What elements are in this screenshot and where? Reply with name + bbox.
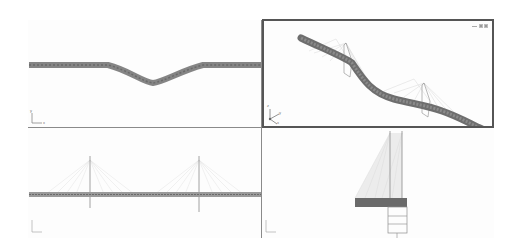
maximize-icon[interactable]	[484, 24, 488, 28]
bridge-3d-drawing	[264, 21, 492, 126]
axis-label-y: y	[30, 108, 32, 113]
axis-gizmo-icon	[264, 214, 284, 234]
bridge-section-drawing	[262, 128, 494, 238]
axis-label-x: x	[43, 120, 45, 125]
axis-gizmo-icon	[30, 110, 50, 126]
viewport-perspective[interactable]: y x z	[262, 19, 494, 128]
bridge-elevation-drawing	[28, 128, 262, 238]
restore-icon[interactable]	[479, 24, 483, 28]
bridge-plan-drawing	[28, 20, 262, 128]
viewport-front[interactable]	[28, 128, 262, 238]
viewport-top[interactable]: x y	[28, 20, 262, 128]
axis-label-x: x	[277, 120, 279, 125]
axis-label-z: z	[267, 103, 269, 108]
viewport-controls	[472, 24, 488, 28]
viewport-left[interactable]	[262, 128, 494, 238]
axis-gizmo-icon	[30, 214, 50, 234]
axis-label-y: y	[279, 110, 281, 115]
minimize-icon[interactable]	[472, 26, 477, 27]
